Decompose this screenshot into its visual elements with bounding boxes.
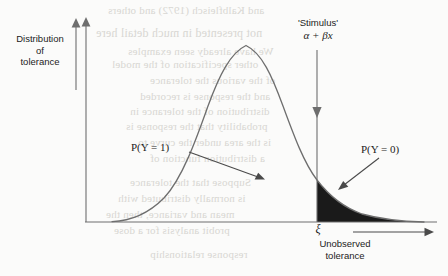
y-axis-arrowhead (82, 17, 91, 27)
tolerance-distribution-figure: and Kalbfleisch (1972) and othersnot pre… (0, 0, 448, 276)
unobserved-tolerance-direction-arrow (353, 228, 434, 236)
prob-y0-label: P(Y = 0) (361, 144, 399, 156)
y-axis-title-line-2: of (6, 45, 74, 57)
stimulus-label: 'Stimulus' (272, 17, 364, 29)
x-axis-title: Unobserved tolerance (303, 238, 387, 261)
prob-y1-leader-arrow (189, 152, 265, 180)
y-axis-title-line-1: Distribution (6, 33, 74, 45)
x-axis-title-line-2: tolerance (303, 250, 387, 262)
y-axis-title: Distribution of tolerance (6, 33, 74, 68)
prob-y0-leader-arrow (338, 158, 379, 190)
x-axis-title-line-1: Unobserved (303, 238, 387, 250)
y-axis-title-line-3: tolerance (6, 56, 74, 68)
prob-y1-label: P(Y = 1) (131, 142, 169, 154)
threshold-symbol-label: ξ (310, 224, 326, 236)
tolerance-density-curve (112, 46, 424, 223)
stimulus-formula: α + βx (272, 30, 364, 42)
